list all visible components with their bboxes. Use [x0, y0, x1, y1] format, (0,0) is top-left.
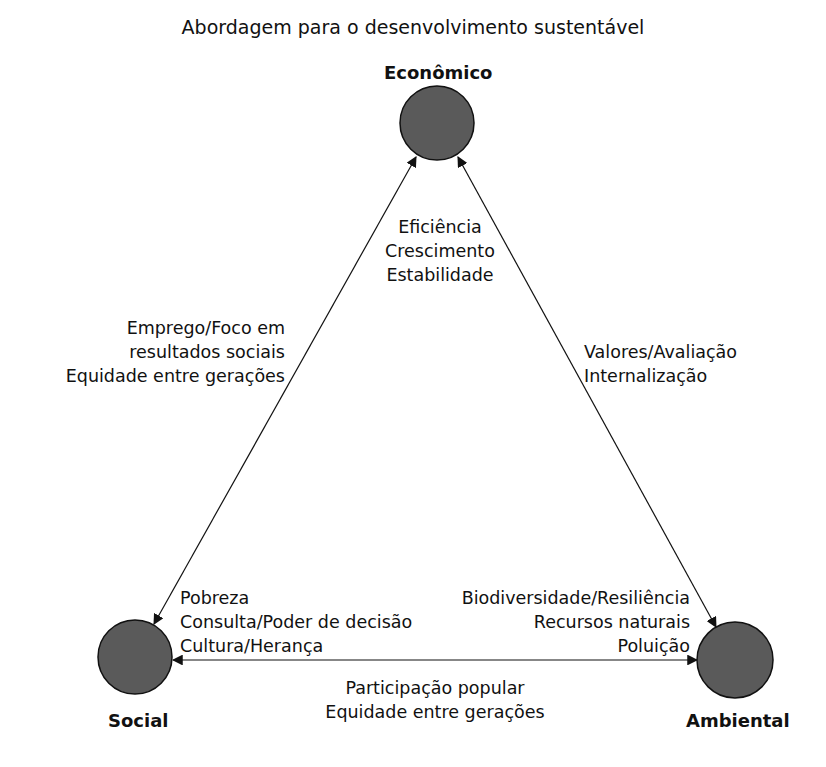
text-line: resultados sociais: [40, 340, 285, 364]
text-line: Biodiversidade/Resiliência: [430, 586, 690, 610]
text-line: Valores/Avaliação: [584, 340, 737, 364]
text-line: Poluição: [430, 634, 690, 658]
economic-node: [400, 86, 474, 160]
text-line: Emprego/Foco em: [40, 316, 285, 340]
environmental-inner-text: Biodiversidade/Resiliência Recursos natu…: [430, 586, 690, 658]
economic-inner-text: Eficiência Crescimento Estabilidade: [360, 215, 520, 287]
environmental-label: Ambiental: [686, 710, 790, 731]
economic-environmental-edge-text: Valores/Avaliação Internalização: [584, 340, 737, 388]
social-inner-text: Pobreza Consulta/Poder de decisão Cultur…: [180, 586, 412, 658]
text-line: Internalização: [584, 364, 737, 388]
text-line: Participação popular: [280, 676, 590, 700]
environmental-node: [697, 622, 773, 698]
text-line: Crescimento: [360, 239, 520, 263]
text-line: Pobreza: [180, 586, 412, 610]
text-line: Cultura/Herança: [180, 634, 412, 658]
social-environmental-edge-text: Participação popular Equidade entre gera…: [280, 676, 590, 724]
social-node: [98, 620, 172, 694]
economic-social-edge-text: Emprego/Foco em resultados sociais Equid…: [40, 316, 285, 388]
social-label: Social: [108, 710, 169, 731]
text-line: Estabilidade: [360, 263, 520, 287]
text-line: Recursos naturais: [430, 610, 690, 634]
economic-label: Econômico: [384, 62, 492, 83]
text-line: Equidade entre gerações: [280, 700, 590, 724]
text-line: Eficiência: [360, 215, 520, 239]
text-line: Equidade entre gerações: [40, 364, 285, 388]
text-line: Consulta/Poder de decisão: [180, 610, 412, 634]
